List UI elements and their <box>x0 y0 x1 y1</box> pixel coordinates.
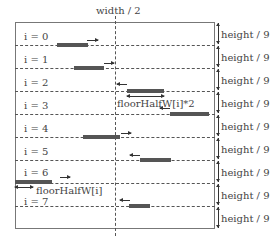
height-dimension-icon <box>218 115 219 136</box>
arrow-right-icon <box>121 133 131 134</box>
arrow-left-icon <box>130 155 140 156</box>
row-label: i = 7 <box>24 196 48 207</box>
floor-bar <box>57 43 88 47</box>
row-height-label: height / 9 <box>221 29 270 40</box>
arrow-right-icon <box>104 63 114 64</box>
height-dimension-icon <box>218 207 219 228</box>
floor-bar <box>140 158 171 162</box>
row-label: i = 3 <box>24 100 48 111</box>
height-dimension-icon <box>218 46 219 67</box>
row-label: i = 5 <box>24 146 48 157</box>
floor-bar <box>74 66 104 70</box>
half-width-annotation: floorHalfW[i] <box>36 185 102 196</box>
row-label: i = 1 <box>24 54 48 65</box>
height-dimension-icon <box>218 138 219 159</box>
double-arrow-icon <box>15 187 33 188</box>
height-dimension-icon <box>218 23 219 44</box>
row-height-label: height / 9 <box>221 98 270 109</box>
height-dimension-icon <box>218 69 219 90</box>
row-height-label: height / 9 <box>221 144 270 155</box>
row-height-label: height / 9 <box>221 52 270 63</box>
center-line <box>115 16 116 236</box>
row-label: i = 4 <box>24 123 48 134</box>
floor-bar <box>170 112 209 116</box>
row-height-label: height / 9 <box>221 75 270 86</box>
row-height-label: height / 9 <box>221 213 270 224</box>
arrow-left-icon <box>120 200 130 201</box>
full-width-annotation: floorHalfW[i]*2 <box>117 98 195 109</box>
row-height-label: height / 9 <box>221 121 270 132</box>
floor-bar <box>127 89 164 93</box>
height-dimension-icon <box>218 161 219 182</box>
arrow-right-icon <box>60 177 70 178</box>
row-label: i = 6 <box>24 167 48 178</box>
row-height-label: height / 9 <box>221 167 270 178</box>
floor-bar <box>129 204 150 208</box>
row-height-label: height / 9 <box>221 190 270 201</box>
arrow-right-icon <box>87 40 98 41</box>
floor-bar <box>83 135 120 139</box>
center-label: width / 2 <box>96 5 141 16</box>
double-arrow-icon <box>127 96 164 97</box>
height-dimension-icon <box>218 184 219 205</box>
row-label: i = 2 <box>24 77 48 88</box>
arrow-left-icon <box>117 84 127 85</box>
row-label: i = 0 <box>24 31 48 42</box>
height-dimension-icon <box>218 92 219 113</box>
floor-bar <box>15 180 52 184</box>
